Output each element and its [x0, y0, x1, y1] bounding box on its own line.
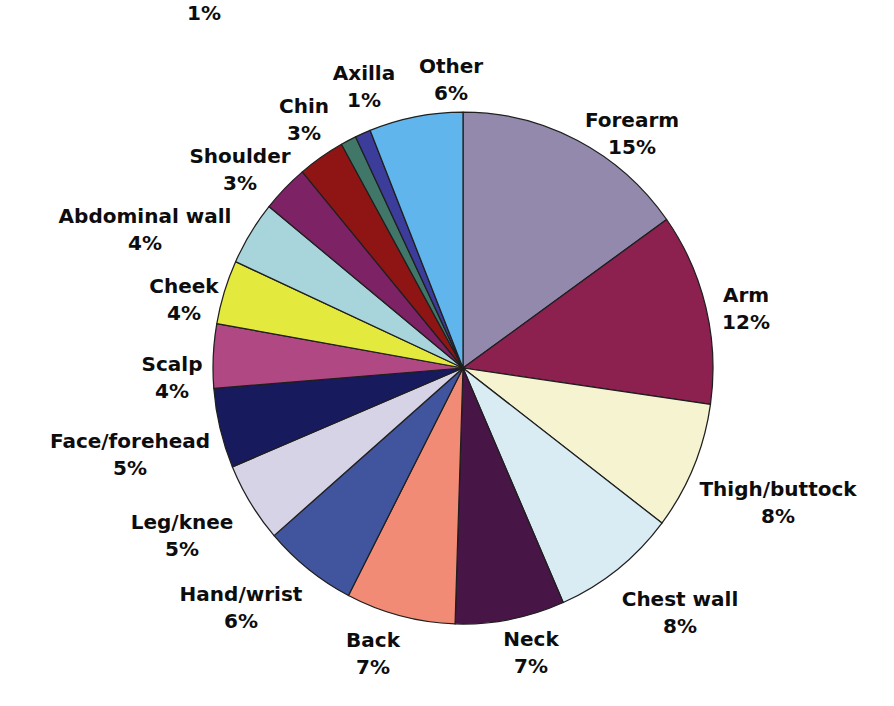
- slice-label-name-chest-wall: Chest wall: [622, 586, 739, 613]
- slice-label-pct-chest-wall: 8%: [622, 613, 739, 640]
- slice-label-chest-wall: Chest wall8%: [622, 586, 739, 640]
- slice-label-name-abdominal-wall: Abdominal wall: [59, 203, 232, 230]
- slice-label-pct-thigh-buttock: 8%: [699, 503, 856, 530]
- slice-label-pct-back: 7%: [346, 654, 400, 681]
- slice-label-pct-arm: 12%: [722, 309, 770, 336]
- slice-label-back: Back7%: [346, 627, 400, 681]
- slice-label-hand-wrist: Hand/wrist6%: [180, 581, 303, 635]
- slice-label-name-thigh-buttock: Thigh/buttock: [699, 476, 856, 503]
- slice-label-name-chin: Chin: [279, 93, 329, 120]
- slice-label-leg-knee: Leg/knee5%: [131, 509, 234, 563]
- slice-label-name-back: Back: [346, 627, 400, 654]
- slice-label-thigh-buttock: Thigh/buttock8%: [699, 476, 856, 530]
- slice-label-pct-scalp: 4%: [142, 378, 203, 405]
- slice-label-cheek: Cheek4%: [149, 273, 218, 327]
- pie-chart-figure: Forearm15%Arm12%Thigh/buttock8%Chest wal…: [0, 0, 894, 706]
- slice-label-face-forehead: Face/forehead5%: [50, 428, 210, 482]
- slice-label-unlabeled: 1%: [187, 0, 221, 27]
- slice-label-name-shoulder: Shoulder: [189, 143, 290, 170]
- slice-label-pct-unlabeled: 1%: [187, 0, 221, 27]
- slice-label-name-neck: Neck: [503, 626, 558, 653]
- slice-label-pct-face-forehead: 5%: [50, 455, 210, 482]
- slice-label-name-other: Other: [419, 53, 483, 80]
- slice-label-name-leg-knee: Leg/knee: [131, 509, 234, 536]
- slice-label-pct-cheek: 4%: [149, 300, 218, 327]
- slice-label-pct-abdominal-wall: 4%: [59, 230, 232, 257]
- slice-label-other: Other6%: [419, 53, 483, 107]
- slice-label-pct-hand-wrist: 6%: [180, 608, 303, 635]
- slice-label-pct-neck: 7%: [503, 653, 558, 680]
- slice-label-shoulder: Shoulder3%: [189, 143, 290, 197]
- slice-label-scalp: Scalp4%: [142, 351, 203, 405]
- slice-label-name-arm: Arm: [722, 282, 770, 309]
- slice-label-abdominal-wall: Abdominal wall4%: [59, 203, 232, 257]
- slice-label-name-scalp: Scalp: [142, 351, 203, 378]
- slice-label-neck: Neck7%: [503, 626, 558, 680]
- slice-label-name-forearm: Forearm: [585, 107, 679, 134]
- slice-label-chin: Chin3%: [279, 93, 329, 147]
- slice-label-axilla: Axilla1%: [333, 60, 395, 114]
- slice-label-name-axilla: Axilla: [333, 60, 395, 87]
- slice-label-name-cheek: Cheek: [149, 273, 218, 300]
- slice-label-pct-shoulder: 3%: [189, 170, 290, 197]
- slice-label-pct-axilla: 1%: [333, 87, 395, 114]
- slice-label-name-face-forehead: Face/forehead: [50, 428, 210, 455]
- slice-label-forearm: Forearm15%: [585, 107, 679, 161]
- slice-label-pct-forearm: 15%: [585, 134, 679, 161]
- slice-label-pct-chin: 3%: [279, 120, 329, 147]
- slice-label-pct-leg-knee: 5%: [131, 536, 234, 563]
- slice-label-pct-other: 6%: [419, 80, 483, 107]
- slice-label-arm: Arm12%: [722, 282, 770, 336]
- slice-label-name-hand-wrist: Hand/wrist: [180, 581, 303, 608]
